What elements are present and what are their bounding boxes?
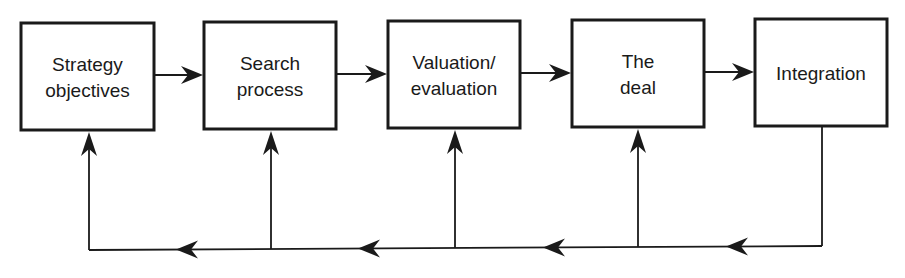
step-label: Search xyxy=(240,53,300,74)
step-box xyxy=(572,20,704,127)
step-label: Valuation/ xyxy=(412,52,496,73)
step-label: Strategy xyxy=(52,54,123,75)
forward-arrow-valuation-to-deal xyxy=(521,64,571,82)
process-steps: StrategyobjectivesSearchprocessValuation… xyxy=(21,19,887,130)
step-label: objectives xyxy=(45,80,130,101)
feedback-to-valuation xyxy=(447,130,463,248)
forward-arrow-search-to-valuation xyxy=(337,65,387,83)
step-deal: Thedeal xyxy=(572,20,704,127)
feedback-to-deal xyxy=(630,129,646,247)
step-label: Integration xyxy=(776,63,866,84)
step-label: process xyxy=(237,79,304,100)
step-label: The xyxy=(622,51,655,72)
step-box xyxy=(204,22,336,129)
step-box xyxy=(21,23,154,130)
step-valuation: Valuation/evaluation xyxy=(388,21,520,128)
step-label: evaluation xyxy=(411,78,498,99)
step-integration: Integration xyxy=(755,19,887,126)
step-strategy: Strategyobjectives xyxy=(21,23,154,130)
feedback-to-search xyxy=(263,131,279,249)
step-search: Searchprocess xyxy=(204,22,336,129)
forward-arrow-strategy-to-search xyxy=(155,66,203,84)
step-label: deal xyxy=(620,77,656,98)
mna-process-diagram: StrategyobjectivesSearchprocessValuation… xyxy=(0,0,905,278)
step-box xyxy=(388,21,520,128)
feedback-to-strategy xyxy=(81,132,97,250)
feedback-loop xyxy=(81,127,822,258)
forward-arrow-deal-to-integration xyxy=(705,63,754,81)
